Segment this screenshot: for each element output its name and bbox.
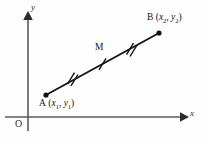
point-b-y-subscript: 2 (175, 17, 178, 24)
tick-single-mid (99, 58, 106, 69)
point-a-y-subscript: 1 (68, 103, 71, 110)
point-b-dot (156, 30, 161, 35)
point-a-dot (43, 92, 48, 97)
point-a-label: A (x1, y1) (39, 99, 74, 110)
y-axis-arrow-icon (23, 11, 33, 20)
x-axis-label: x (190, 109, 194, 118)
point-a-x-subscript: 1 (56, 103, 59, 110)
y-axis-label: y (31, 3, 35, 12)
midpoint-label: M (95, 43, 103, 53)
point-b-label: B (x2, y2) (147, 13, 182, 24)
segment-ab (43, 30, 161, 97)
midpoint-diagram: y x O A (x1, y1) B (x2, y2) M (0, 0, 207, 142)
x-axis (5, 112, 189, 122)
point-b-letter: B (147, 12, 153, 22)
tick-mark (99, 58, 106, 69)
origin-label: O (15, 119, 22, 129)
x-axis-arrow-icon (180, 112, 189, 122)
y-axis (23, 11, 33, 131)
point-b-x-subscript: 2 (163, 17, 166, 24)
point-a-letter: A (39, 98, 46, 108)
